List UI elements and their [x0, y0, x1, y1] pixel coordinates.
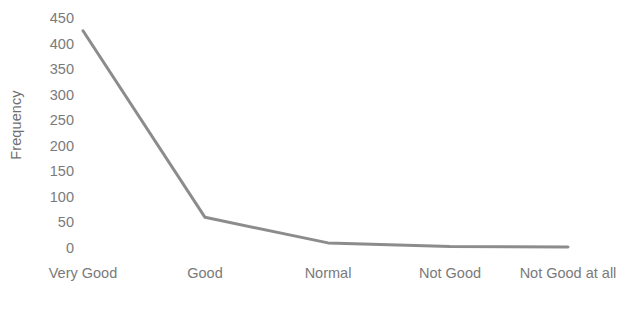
- x-axis-category-label: Normal: [272, 264, 384, 284]
- x-axis-category-label: Good: [149, 264, 261, 284]
- x-axis-category-label: Not Good at all: [512, 264, 624, 284]
- line-chart: Frequency 050100150200250300350400450 Ve…: [0, 0, 638, 318]
- series-line-frequency: [83, 31, 568, 247]
- x-axis-category-labels: Very GoodGoodNormalNot GoodNot Good at a…: [0, 262, 638, 318]
- plot-area: [0, 0, 638, 262]
- x-axis-category-label: Very Good: [27, 264, 139, 284]
- plot-svg: [0, 0, 638, 262]
- x-axis-category-label: Not Good: [394, 264, 506, 284]
